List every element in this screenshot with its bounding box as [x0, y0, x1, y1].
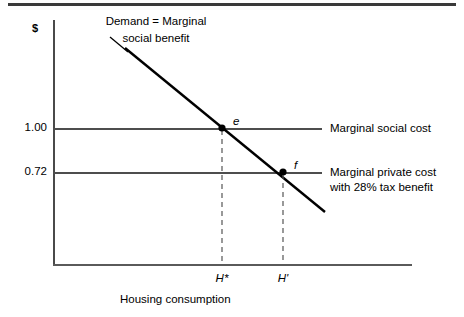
economics-diagram: $ 1.00 0.72 Demand = Marginal social ben… — [0, 0, 464, 317]
point-label-e: e — [233, 115, 239, 127]
marginal-private-cost-label: Marginal private cost with 28% tax benef… — [330, 165, 436, 195]
x-tick-label-h-star: H* — [202, 272, 242, 284]
demand-curve-line — [125, 48, 325, 212]
demand-annotation-line-2: social benefit — [66, 30, 246, 47]
marginal-private-cost-label-line-2: with 28% tax benefit — [330, 180, 436, 195]
point-label-f: f — [294, 159, 297, 171]
demand-annotation: Demand = Marginal social benefit — [66, 13, 246, 47]
demand-annotation-line-1: Demand = Marginal — [66, 13, 246, 30]
x-tick-label-h-prime: H' — [263, 272, 303, 284]
marginal-social-cost-label: Marginal social cost — [330, 121, 431, 136]
curve-layer — [0, 0, 464, 317]
point-marker-e — [218, 124, 225, 131]
point-marker-f — [279, 168, 286, 175]
x-axis-title: Housing consumption — [120, 293, 231, 306]
marginal-private-cost-label-line-1: Marginal private cost — [330, 165, 436, 180]
